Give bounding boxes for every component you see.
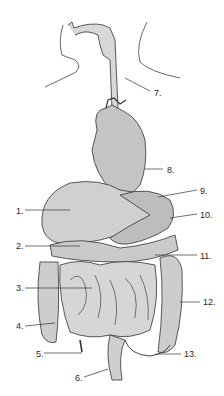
rectum [108, 335, 125, 380]
face-outline [45, 25, 79, 87]
anatomy-illustration [0, 0, 224, 396]
label-5: 5. [36, 349, 44, 359]
label-10: 10. [200, 210, 213, 220]
label-13: 13. [184, 349, 197, 359]
label-6: 6. [75, 373, 83, 383]
label-9: 9. [200, 186, 208, 196]
appendix [80, 340, 82, 352]
ascending-colon [38, 262, 59, 343]
esophagus [68, 22, 118, 110]
label-4: 4. [16, 321, 24, 331]
heart [92, 105, 146, 194]
label-2: 2. [16, 241, 24, 251]
label-7: 7. [154, 88, 162, 98]
descending-colon [158, 256, 182, 353]
label-3: 3. [16, 283, 24, 293]
neck-outline [139, 22, 180, 78]
label-11: 11. [200, 251, 212, 261]
label-8: 8. [167, 165, 175, 175]
small-intestine [60, 262, 157, 337]
label-1: 1. [16, 206, 24, 216]
label-12: 12. [203, 297, 216, 307]
